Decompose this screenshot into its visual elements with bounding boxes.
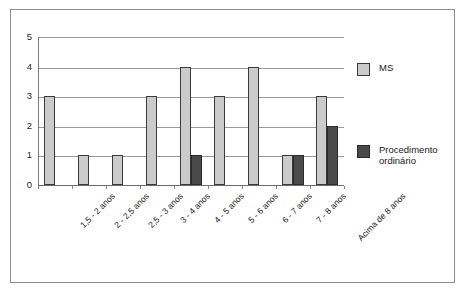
bar-chart-figure: 5 4 3 2 1 0	[0, 0, 465, 293]
bar-group-4	[174, 37, 208, 185]
y-tick-4: 4	[6, 62, 32, 72]
bar-po-8	[327, 126, 338, 185]
x-tick-9	[344, 186, 345, 189]
bar-ms-5	[214, 96, 225, 185]
bar-group-5	[208, 37, 242, 185]
bar-ms-7	[282, 155, 293, 185]
x-axis-category-labels: 1,5 - 2 anos 2 - 2,5 anos 2,5 - 3 anos 3…	[38, 185, 344, 280]
bar-group-3	[140, 37, 174, 185]
bar-ms-4	[180, 67, 191, 185]
bar-group-7	[276, 37, 310, 185]
legend-swatch-procedimento-ordinario	[357, 145, 370, 158]
y-tick-3: 3	[6, 91, 32, 101]
y-tick-5: 5	[6, 32, 32, 42]
bars-layer	[38, 37, 344, 185]
x-label-0: 1,5 - 2 anos	[78, 191, 117, 230]
y-tick-0: 0	[6, 180, 32, 190]
bar-ms-3	[146, 96, 157, 185]
y-tick-2: 2	[6, 121, 32, 131]
legend-label-procedimento-ordinario: Procedimento ordinário	[379, 144, 455, 166]
bar-ms-0	[44, 96, 55, 185]
legend-label-ms: MS	[379, 62, 393, 73]
y-tick-1: 1	[6, 150, 32, 160]
bar-po-7	[293, 155, 304, 185]
bar-group-2	[106, 37, 140, 185]
bar-ms-8	[316, 96, 327, 185]
x-label-5: 5 - 6 anos	[246, 191, 280, 225]
x-label-2: 2,5 - 3 anos	[146, 191, 185, 230]
bar-group-0	[38, 37, 72, 185]
legend-entry-ms: MS	[357, 62, 393, 76]
x-label-4: 4 - 5 anos	[212, 191, 246, 225]
x-label-1: 2 - 2,5 anos	[112, 191, 151, 230]
legend-entry-procedimento-ordinario: Procedimento ordinário	[357, 144, 455, 166]
x-label-7: 7 - 8 anos	[314, 191, 348, 225]
bar-group-8	[310, 37, 344, 185]
bar-po-4	[191, 155, 202, 185]
bar-group-1	[72, 37, 106, 185]
x-label-6: 6 - 7 anos	[280, 191, 314, 225]
legend-swatch-ms	[357, 63, 370, 76]
bar-ms-1	[78, 155, 89, 185]
y-axis-tick-labels: 5 4 3 2 1 0	[0, 37, 32, 185]
bar-ms-2	[112, 155, 123, 185]
bar-ms-6	[248, 67, 259, 185]
bar-group-6	[242, 37, 276, 185]
